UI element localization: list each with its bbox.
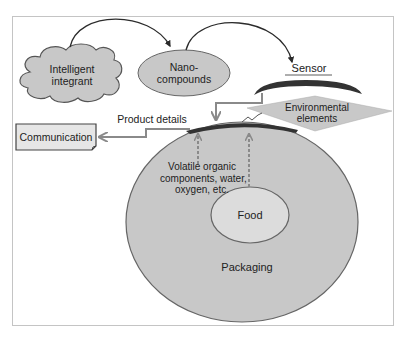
nano-compounds-line1: Nano- [150,61,218,73]
sensor-label: Sensor [285,62,333,74]
volatiles-line3: oxygen, etc. [160,184,244,196]
nano-compounds-label: Nano- compounds [150,61,218,85]
communication-label: Communication [18,131,94,143]
signal-zigzag-icon [242,113,262,122]
intelligent-integrant-line1: Intelligent [42,63,102,75]
diagram-canvas: Intelligent integrant Nano- compounds Se… [0,0,406,339]
arrow-integrant-to-nano [70,19,170,47]
product-details-label: Product details [114,113,190,125]
volatiles-label: Volatile organic components, water, oxyg… [160,161,244,196]
volatiles-line1: Volatile organic [160,161,244,173]
intelligent-integrant-line2: integrant [42,75,102,87]
environmental-line1: Environmental [285,102,349,113]
packaging-label: Packaging [215,261,279,273]
food-label: Food [230,209,270,221]
nano-compounds-line2: compounds [150,73,218,85]
volatiles-line2: components, water, [160,173,244,185]
arrow-product-details [99,129,190,137]
environmental-elements-label: Environmental elements [285,102,349,124]
sensor-shape [254,80,362,95]
intelligent-integrant-label: Intelligent integrant [42,63,102,87]
environmental-line2: elements [285,113,349,124]
